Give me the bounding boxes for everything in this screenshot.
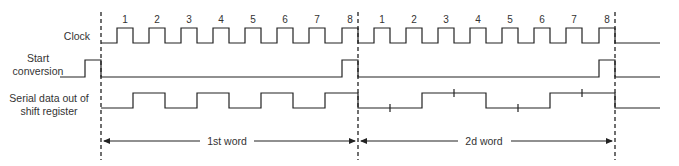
word1-label: 1st word <box>207 135 247 147</box>
clock-number: 6 <box>539 14 545 25</box>
clock-number: 7 <box>314 14 320 25</box>
clock-number: 8 <box>347 14 353 25</box>
clock-number: 5 <box>507 14 513 25</box>
clock-number: 5 <box>250 14 256 25</box>
clock-number: 4 <box>475 14 481 25</box>
clock-number: 6 <box>282 14 288 25</box>
clock-number: 7 <box>571 14 577 25</box>
serial-data-waveform <box>101 93 660 108</box>
clock-number: 1 <box>122 14 128 25</box>
clock-number: 3 <box>186 14 192 25</box>
start-conversion-waveform <box>60 60 660 77</box>
clock-number: 8 <box>604 14 610 25</box>
timing-diagram: Clock Start conversion Serial data out o… <box>0 0 679 166</box>
waveform-canvas: 1 2 3 4 5 6 7 8 1 2 3 4 5 6 7 8 1st word… <box>0 0 679 166</box>
clock-number: 4 <box>218 14 224 25</box>
clock-number: 2 <box>411 14 417 25</box>
word2-label: 2d word <box>465 135 503 147</box>
clock-number: 3 <box>443 14 449 25</box>
clock-number: 1 <box>379 14 385 25</box>
clock-number: 2 <box>154 14 160 25</box>
clock-waveform <box>101 28 660 43</box>
clock-numbers: 1 2 3 4 5 6 7 8 1 2 3 4 5 6 7 8 <box>122 14 610 25</box>
